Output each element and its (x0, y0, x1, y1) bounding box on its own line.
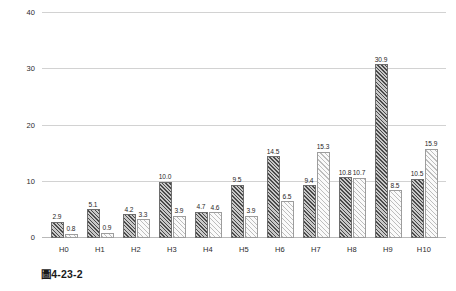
x-axis-tick-labels: H0H1H2H3H4H5H6H7H8H9H10 (42, 245, 446, 254)
bar-group: 10.515.9 (406, 13, 442, 238)
x-axis-tick-label: H8 (334, 245, 370, 254)
bar[interactable]: 2.9 (51, 222, 64, 238)
bar-value-label: 3.9 (247, 208, 256, 215)
bar[interactable]: 6.5 (281, 201, 294, 238)
bar-value-label: 15.9 (425, 141, 437, 148)
bar[interactable]: 10.7 (353, 178, 366, 238)
bar-value-label: 10.7 (353, 170, 365, 177)
bar-value-label: 10.5 (411, 171, 423, 178)
bar-value-label: 3.9 (175, 208, 184, 215)
bar-value-label: 5.1 (89, 202, 98, 209)
x-axis-tick-label: H1 (82, 245, 118, 254)
bar-group: 4.74.6 (190, 13, 226, 238)
bar-value-label: 2.9 (53, 214, 62, 221)
bar-group: 10.03.9 (154, 13, 190, 238)
bar-group: 9.415.3 (298, 13, 334, 238)
bar-value-label: 14.5 (267, 149, 279, 156)
y-axis-tick-label: 0 (31, 233, 35, 242)
bar-value-label: 6.5 (283, 194, 292, 201)
bar-value-label: 4.6 (211, 205, 220, 212)
bar[interactable]: 4.6 (209, 212, 222, 238)
x-axis-tick-label: H5 (226, 245, 262, 254)
bar[interactable]: 3.9 (173, 216, 186, 238)
bar-group: 5.10.9 (82, 13, 118, 238)
bar-groups: 2.90.85.10.94.23.310.03.94.74.69.53.914.… (42, 13, 446, 238)
bar-value-label: 4.2 (125, 207, 134, 214)
bar[interactable]: 14.5 (267, 156, 280, 238)
bar-value-label: 10.8 (339, 170, 351, 177)
bar-group: 4.23.3 (118, 13, 154, 238)
bar[interactable]: 4.2 (123, 214, 136, 238)
y-axis-tick-label: 40 (26, 8, 35, 17)
x-axis-tick-label: H6 (262, 245, 298, 254)
bar[interactable]: 10.8 (339, 177, 352, 238)
x-axis-tick-label: H4 (190, 245, 226, 254)
bar-value-label: 9.4 (305, 178, 314, 185)
bar-value-label: 15.3 (317, 144, 329, 151)
x-axis-tick-label: H0 (46, 245, 82, 254)
bar-group: 2.90.8 (46, 13, 82, 238)
bar-value-label: 30.9 (375, 57, 387, 64)
bar[interactable]: 30.9 (375, 64, 388, 238)
bar-value-label: 0.9 (103, 225, 112, 232)
bar-value-label: 9.5 (233, 177, 242, 184)
bar[interactable]: 9.5 (231, 185, 244, 238)
bar[interactable]: 5.1 (87, 209, 100, 238)
bar-value-label: 0.8 (67, 226, 76, 233)
bar[interactable]: 10.0 (159, 182, 172, 238)
bar-value-label: 4.7 (197, 204, 206, 211)
x-axis-tick-label: H7 (298, 245, 334, 254)
bar[interactable]: 15.3 (317, 152, 330, 238)
bar[interactable]: 0.9 (101, 233, 114, 238)
x-axis-tick-label: H3 (154, 245, 190, 254)
bar-group: 10.810.7 (334, 13, 370, 238)
bar[interactable]: 8.5 (389, 190, 402, 238)
bar-value-label: 10.0 (159, 174, 171, 181)
bar-group: 14.56.5 (262, 13, 298, 238)
x-axis-tick-label: H2 (118, 245, 154, 254)
bar[interactable]: 3.3 (137, 219, 150, 238)
bar[interactable]: 3.9 (245, 216, 258, 238)
y-axis-tick-label: 10 (26, 176, 35, 185)
bar[interactable]: 15.9 (425, 149, 438, 238)
plot-area: 010203040 2.90.85.10.94.23.310.03.94.74.… (42, 13, 446, 238)
x-axis-tick-label: H9 (370, 245, 406, 254)
y-axis-tick-label: 30 (26, 64, 35, 73)
bar-group: 9.53.9 (226, 13, 262, 238)
bar[interactable]: 10.5 (411, 179, 424, 238)
bar-chart: 010203040 2.90.85.10.94.23.310.03.94.74.… (0, 0, 456, 291)
bar[interactable]: 4.7 (195, 212, 208, 238)
bar-value-label: 8.5 (391, 183, 400, 190)
bar[interactable]: 9.4 (303, 185, 316, 238)
bar[interactable]: 0.8 (65, 234, 78, 239)
figure-caption: 圖4-23-2 (41, 266, 83, 281)
bar-group: 30.98.5 (370, 13, 406, 238)
y-axis-tick-label: 20 (26, 120, 35, 129)
bar-value-label: 3.3 (139, 212, 148, 219)
x-axis-tick-label: H10 (406, 245, 442, 254)
